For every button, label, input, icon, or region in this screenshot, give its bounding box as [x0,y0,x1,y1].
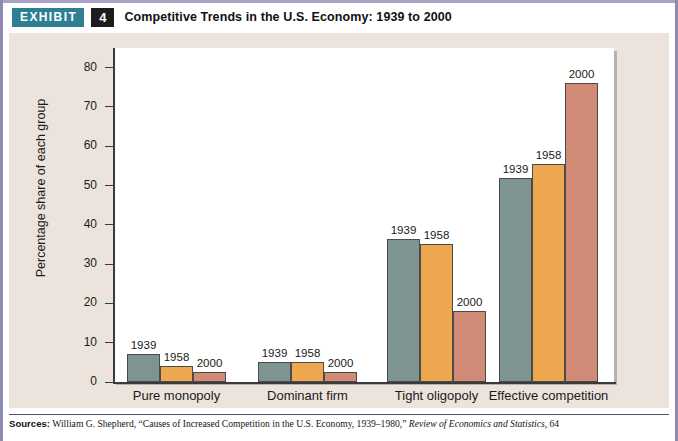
bar-series-label: 1939 [495,163,536,175]
source-text-part-2: 64 [547,418,559,429]
source-divider [9,414,669,415]
chart-panel: Percentage share of each group 010203040… [9,33,669,408]
bar-series-label: 2000 [189,357,230,369]
exhibit-number-badge: 4 [91,8,114,27]
bar-series-label: 2000 [561,68,602,80]
y-axis-line [113,48,115,383]
x-axis-line [113,382,616,384]
y-tick-mark [105,67,113,68]
bar-effective-competition-1939 [499,178,532,382]
y-tick-label: 30 [9,256,97,270]
bar-tight-oligopoly-1958 [420,244,453,382]
source-journal-name: Review of Economics and Statistics, [409,418,547,429]
page-title: Competitive Trends in the U.S. Economy: … [124,10,452,24]
bar-series-label: 2000 [449,296,490,308]
y-tick-label: 20 [9,295,97,309]
exhibit-page: EXHIBIT 4 Competitive Trends in the U.S.… [0,0,678,441]
y-tick-label: 70 [9,99,97,113]
source-text-part-1: William G. Shepherd, “Causes of Increase… [50,418,409,429]
y-tick-label: 50 [9,178,97,192]
exhibit-badge: EXHIBIT [12,8,84,27]
y-tick-mark [105,185,113,186]
bar-tight-oligopoly-1939 [387,239,420,382]
y-tick-mark [105,106,113,107]
bar-tight-oligopoly-2000 [453,311,486,382]
y-tick-label: 0 [9,374,97,388]
bar-series-label: 1939 [123,339,164,351]
bar-series-label: 1958 [528,149,569,161]
y-tick-mark [105,264,113,265]
y-tick-mark [105,342,113,343]
bar-dominant-firm-1939 [258,362,291,382]
bar-series-label: 2000 [320,357,361,369]
y-tick-label: 60 [9,138,97,152]
y-tick-mark [105,146,113,147]
bar-effective-competition-2000 [565,83,598,382]
bar-effective-competition-1958 [532,164,565,382]
y-tick-label: 10 [9,335,97,349]
page-border-left [0,0,3,441]
x-axis-label-effective-competition: Effective competition [469,388,629,403]
bar-pure-monopoly-2000 [193,372,226,382]
y-tick-label: 80 [9,60,97,74]
y-tick-mark [105,224,113,225]
bar-series-label: 1958 [416,229,457,241]
exhibit-header: EXHIBIT 4 Competitive Trends in the U.S.… [3,3,675,31]
source-note: Sources: William G. Shepherd, “Causes of… [9,418,669,430]
y-tick-mark [105,382,113,383]
y-tick-mark [105,303,113,304]
y-tick-label: 40 [9,217,97,231]
bar-dominant-firm-2000 [324,372,357,382]
source-label: Sources: [9,418,50,429]
